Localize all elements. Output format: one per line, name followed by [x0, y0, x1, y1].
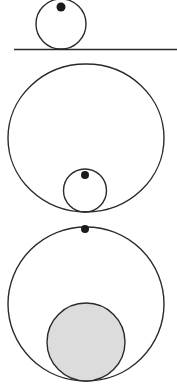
panel-circle-on-line	[14, 0, 177, 50]
panel-small-circle-in-circle	[8, 64, 164, 212]
marked-point-dot	[81, 171, 89, 179]
panel-large-shaded-circle-in-circle	[8, 225, 164, 381]
marked-point-dot	[57, 3, 66, 12]
marked-point-dot	[81, 225, 89, 233]
rolling-circles-diagram	[0, 0, 177, 386]
inner-shaded-circle	[47, 303, 125, 381]
outer-circle	[8, 64, 164, 212]
